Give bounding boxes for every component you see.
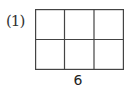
- bottom-label: 6: [66, 72, 90, 88]
- grid-diagram: [35, 9, 124, 70]
- problem-label: (1): [6, 12, 24, 30]
